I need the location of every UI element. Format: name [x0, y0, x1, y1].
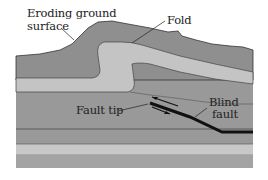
label-blind-fault-2: fault [212, 108, 238, 120]
bottom-layer [16, 155, 253, 168]
label-fault-tip: Fault tip [76, 104, 123, 116]
lower-light-layer [16, 144, 253, 155]
label-fold: Fold [167, 14, 192, 26]
label-eroding-ground-surface-2: surface [27, 20, 69, 32]
label-eroding-ground-surface-1: Eroding ground [27, 7, 116, 19]
